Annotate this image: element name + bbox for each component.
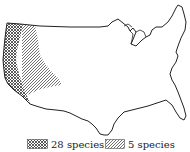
diagonal-swatch-icon [105, 139, 125, 149]
legend-label: 5 species [128, 139, 175, 150]
legend-label: 28 species [51, 139, 104, 150]
region-5-species [22, 23, 62, 96]
crosshatch-swatch-icon [27, 139, 48, 149]
us-map [0, 0, 190, 137]
legend-item-28-species: 28 species [27, 137, 104, 151]
legend: 28 species 5 species [0, 137, 190, 152]
legend-item-5-species: 5 species [105, 137, 175, 151]
